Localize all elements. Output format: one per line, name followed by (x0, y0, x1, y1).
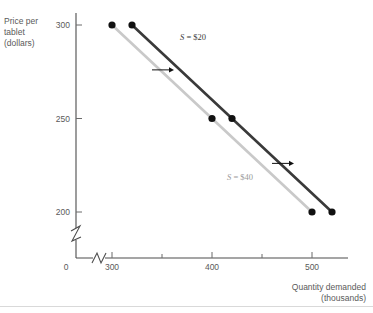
y-axis-title-line2: tablet (4, 27, 25, 37)
y-tick-label-250: 250 (56, 114, 70, 124)
x-tick-label-300: 300 (105, 262, 119, 272)
x-axis-title-line1: Quantity demanded (292, 282, 366, 292)
y-tick-label-300: 300 (56, 20, 70, 30)
series-label-value-0: $40 (240, 172, 253, 182)
x-axis-ticks: 300400500 (105, 252, 319, 272)
x-axis-break-mark (92, 253, 106, 263)
series-group: S = $40S = $20 (108, 21, 335, 215)
x-axis-title-units: (thousands) (321, 293, 366, 303)
origin-label: 0 (64, 262, 69, 272)
data-point-1-1 (228, 115, 235, 122)
demand-curve-chart: 200250300 300400500 Price per tablet (do… (0, 0, 373, 313)
series-label-0: S = $40 (227, 172, 253, 182)
x-axis-title: Quantity demanded (thousands) (292, 282, 366, 303)
data-point-1-2 (328, 208, 335, 215)
shift-arrow-lower-head (289, 161, 294, 166)
y-axis-title: Price per tablet (dollars) (4, 16, 38, 48)
x-tick-label-500: 500 (305, 262, 319, 272)
shift-arrow-upper-head (169, 67, 174, 72)
series-label-equals-1: = (184, 32, 193, 42)
series-0: S = $40 (108, 21, 315, 215)
y-axis-title-line1: Price per (4, 16, 38, 26)
chart-canvas: 200250300 300400500 Price per tablet (do… (0, 0, 373, 313)
x-tick-label-400: 400 (205, 262, 219, 272)
axes-group (71, 13, 348, 263)
y-axis-ticks: 200250300 (56, 20, 82, 217)
data-point-0-1 (208, 115, 215, 122)
y-axis-break-mark (71, 226, 81, 241)
series-label-1: S = $20 (180, 32, 206, 42)
y-tick-label-200: 200 (56, 207, 70, 217)
series-1: S = $20 (128, 21, 335, 215)
series-label-equals-0: = (231, 172, 240, 182)
y-axis-title-units: (dollars) (4, 38, 35, 48)
data-point-0-0 (108, 21, 115, 28)
series-label-value-1: $20 (193, 32, 206, 42)
data-point-0-2 (308, 208, 315, 215)
data-point-1-0 (128, 21, 135, 28)
